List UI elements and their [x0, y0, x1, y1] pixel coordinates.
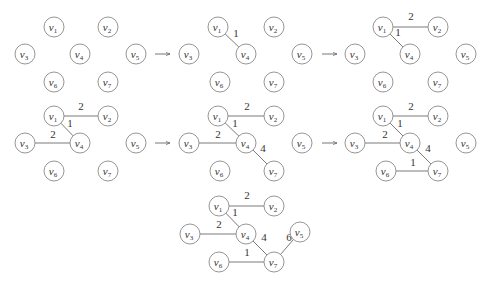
node-v4: v4 — [70, 133, 90, 153]
node-v6: v6 — [376, 161, 396, 181]
graph-panel-step-5: 2124v1v2v3v4v5v6v7 — [179, 100, 312, 181]
edge-weight-label: 1 — [397, 117, 403, 129]
node-v1: v1 — [208, 17, 228, 37]
prim-mst-diagram: v1v2v3v4v5v6v71v1v2v3v4v5v6v721v1v2v3v4v… — [0, 0, 491, 288]
node-v6: v6 — [210, 72, 230, 92]
edges: 212 — [35, 100, 98, 143]
edge-weight-label: 4 — [260, 142, 266, 154]
graph-panel-step-4: 212v1v2v3v4v5v6v7 — [15, 100, 146, 181]
node-v5: v5 — [126, 133, 146, 153]
node-v7: v7 — [264, 161, 284, 181]
node-v1: v1 — [44, 106, 64, 126]
node-v2: v2 — [98, 106, 118, 126]
edge-weight-label: 2 — [244, 189, 250, 201]
node-v7: v7 — [264, 72, 284, 92]
node-v6: v6 — [209, 252, 229, 272]
node-v2: v2 — [264, 196, 284, 216]
node-v3: v3 — [15, 133, 35, 153]
node-v7: v7 — [264, 252, 284, 272]
edges: 2124 — [199, 100, 267, 164]
edge-weight-label: 2 — [408, 10, 414, 22]
node-v5: v5 — [456, 133, 476, 153]
edge-weight-label: 2 — [78, 100, 84, 112]
node-v2: v2 — [428, 106, 448, 126]
node-v5: v5 — [292, 133, 312, 153]
node-v7: v7 — [428, 72, 448, 92]
edge-weight-label: 1 — [233, 27, 239, 39]
node-v3: v3 — [345, 133, 365, 153]
edge-weight-label: 2 — [408, 100, 414, 112]
node-v4: v4 — [236, 133, 256, 153]
node-v4: v4 — [400, 133, 420, 153]
graph-panels: v1v2v3v4v5v6v71v1v2v3v4v5v6v721v1v2v3v4v… — [15, 10, 476, 272]
graph-panel-step-7: 212461v1v2v3v4v5v6v7 — [180, 189, 310, 272]
edge-weight-label: 1 — [67, 117, 73, 129]
node-v6: v6 — [373, 72, 393, 92]
edges: 21 — [390, 10, 428, 47]
node-v2: v2 — [428, 17, 448, 37]
node-v3: v3 — [180, 224, 200, 244]
edge-weight-label: 1 — [232, 117, 238, 129]
node-v1: v1 — [373, 106, 393, 126]
node-v1: v1 — [209, 196, 229, 216]
graph-panel-step-1: v1v2v3v4v5v6v7 — [15, 17, 146, 92]
node-v2: v2 — [98, 17, 118, 37]
graph-panel-step-6: 21241v1v2v3v4v5v6v7 — [345, 100, 476, 181]
node-v6: v6 — [44, 161, 64, 181]
node-v1: v1 — [44, 17, 64, 37]
graph-panel-step-3: 21v1v2v3v4v5v6v7 — [345, 10, 476, 92]
edge-weight-label: 1 — [232, 206, 238, 218]
node-v5: v5 — [290, 222, 310, 242]
node-v3: v3 — [179, 44, 199, 64]
edge-weight-label: 2 — [216, 218, 222, 230]
node-v6: v6 — [44, 72, 64, 92]
node-v7: v7 — [98, 72, 118, 92]
node-v2: v2 — [264, 106, 284, 126]
node-v5: v5 — [292, 44, 312, 64]
node-v5: v5 — [126, 44, 146, 64]
edge-v4-v7 — [253, 241, 267, 255]
node-v4: v4 — [236, 44, 256, 64]
node-v4: v4 — [400, 44, 420, 64]
edge-weight-label: 4 — [425, 142, 431, 154]
edge-weight-label: 2 — [215, 128, 221, 140]
node-v1: v1 — [373, 17, 393, 37]
edge-weight-label: 1 — [410, 156, 416, 168]
node-v5: v5 — [456, 44, 476, 64]
node-v3: v3 — [179, 133, 199, 153]
edge-weight-label: 4 — [261, 231, 267, 243]
node-v3: v3 — [15, 44, 35, 64]
edge-weight-label: 2 — [382, 128, 388, 140]
node-v6: v6 — [210, 161, 230, 181]
node-v4: v4 — [236, 224, 256, 244]
node-v3: v3 — [345, 44, 365, 64]
node-v7: v7 — [98, 161, 118, 181]
node-v7: v7 — [428, 161, 448, 181]
edge-weight-label: 1 — [395, 26, 401, 38]
edge-weight-label: 2 — [244, 100, 250, 112]
edge-weight-label: 1 — [244, 246, 250, 258]
node-v2: v2 — [264, 17, 284, 37]
node-v1: v1 — [208, 106, 228, 126]
graph-panel-step-2: 1v1v2v3v4v5v6v7 — [179, 17, 312, 92]
node-v4: v4 — [70, 44, 90, 64]
edge-weight-label: 2 — [50, 128, 56, 140]
step-arrows — [155, 54, 337, 143]
